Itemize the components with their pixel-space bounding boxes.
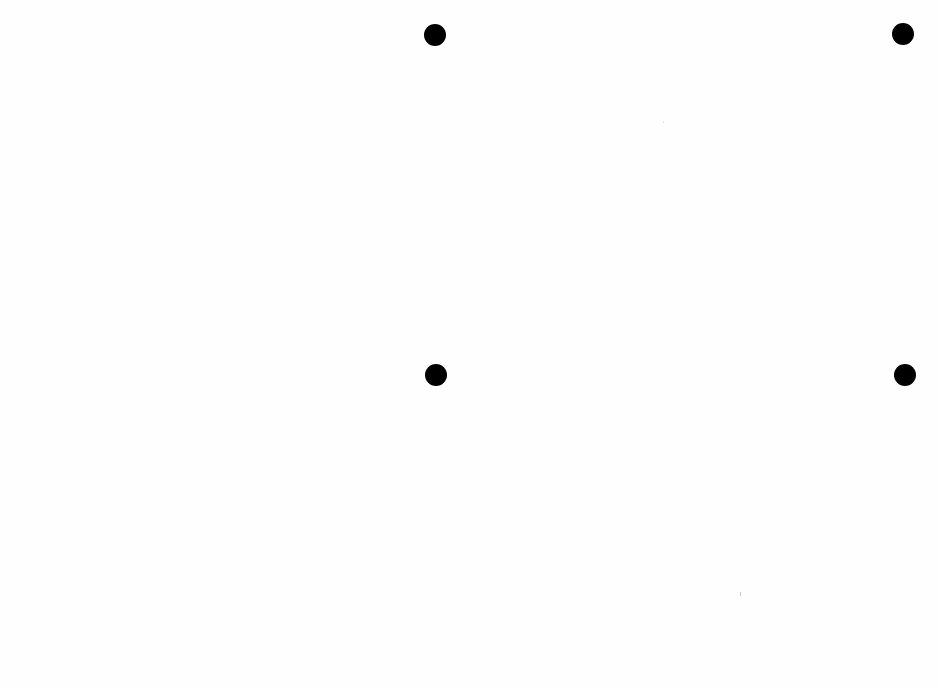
- punch-hole-mark-bottom-right: [894, 364, 916, 386]
- punch-hole-mark-bottom-left: [425, 364, 447, 386]
- scan-speck: [740, 592, 741, 596]
- blank-page: [0, 0, 940, 688]
- scan-speck: [663, 121, 664, 123]
- punch-hole-mark-top-left: [424, 24, 446, 46]
- punch-hole-mark-top-right: [892, 23, 914, 45]
